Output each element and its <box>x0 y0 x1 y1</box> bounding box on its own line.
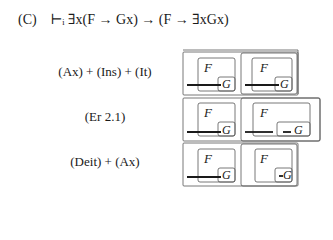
g-label: G <box>280 77 289 92</box>
g-label: G <box>222 77 231 92</box>
f-label: F <box>204 151 212 167</box>
f-label: F <box>260 151 268 167</box>
f-label: F <box>204 105 212 121</box>
diagram-row-3 <box>183 143 298 186</box>
f-label: F <box>260 60 268 76</box>
f-label: F <box>260 105 268 121</box>
g-label: G <box>222 168 231 183</box>
f-label: F <box>204 60 212 76</box>
g-label: G <box>294 123 303 138</box>
g-label: G <box>283 168 292 183</box>
g-label: G <box>222 123 231 138</box>
